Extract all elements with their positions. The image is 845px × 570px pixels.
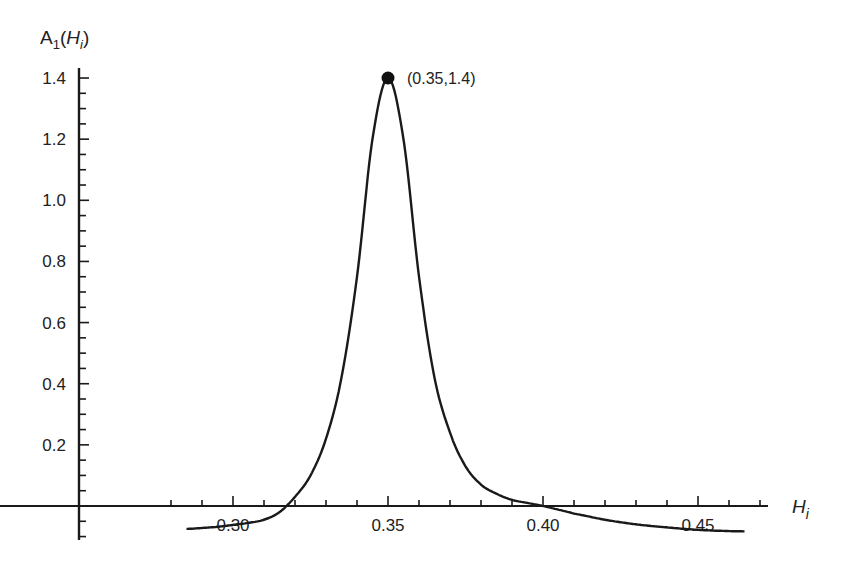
- y-tick-label: 1.2: [42, 130, 66, 149]
- x-axis-ticks: [171, 496, 760, 506]
- y-axis-tick-labels: 0.20.40.60.81.01.21.4: [42, 69, 66, 455]
- data-series-line: [187, 78, 745, 531]
- y-axis-ticks: [79, 78, 89, 537]
- y-tick-label: 0.6: [42, 314, 66, 333]
- x-axis-title: Hi: [792, 496, 810, 522]
- y-tick-label: 1.0: [42, 191, 66, 210]
- peak-annotation-label: (0.35,1.4): [407, 70, 475, 87]
- line-chart: 0.300.350.400.45 0.20.40.60.81.01.21.4 (…: [0, 0, 845, 570]
- x-tick-label: 0.35: [371, 516, 404, 535]
- x-tick-label: 0.40: [526, 516, 559, 535]
- x-tick-label: 0.45: [681, 516, 714, 535]
- peak-point-marker: [382, 72, 395, 85]
- y-axis-title: A1(Hi): [40, 27, 89, 52]
- y-tick-label: 0.8: [42, 252, 66, 271]
- y-tick-label: 0.4: [42, 375, 66, 394]
- y-tick-label: 0.2: [42, 436, 66, 455]
- y-tick-label: 1.4: [42, 69, 66, 88]
